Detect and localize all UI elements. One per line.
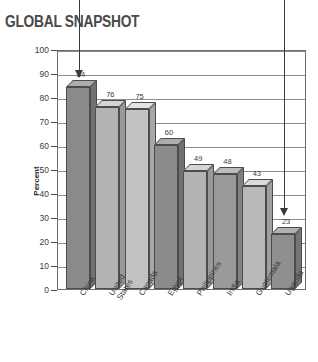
bar-value-label: 60 bbox=[149, 128, 189, 137]
y-tick-mark bbox=[51, 122, 57, 123]
arrow-uganda-head bbox=[280, 208, 288, 216]
y-tick-label: 80 bbox=[19, 93, 49, 103]
y-tick-mark bbox=[51, 170, 57, 171]
bar-value-label: 23 bbox=[266, 217, 306, 226]
bar-front-face bbox=[183, 171, 207, 289]
y-tick-mark bbox=[51, 242, 57, 243]
y-tick-label: 70 bbox=[19, 117, 49, 127]
chart-container: GLOBAL SNAPSHOT Percent 8476756049484323… bbox=[0, 0, 318, 362]
bar-canada: 75 bbox=[125, 109, 149, 289]
gridline bbox=[58, 51, 305, 52]
bar-front-face bbox=[125, 109, 149, 289]
arrow-uganda-line bbox=[284, 0, 285, 209]
bar-value-label: 75 bbox=[120, 92, 160, 101]
bar-front-face bbox=[66, 87, 90, 289]
bar-china: 84 bbox=[66, 87, 90, 289]
y-tick-mark bbox=[51, 74, 57, 75]
y-tick-mark bbox=[51, 266, 57, 267]
bar-front-face bbox=[95, 107, 119, 289]
bar-united-states: 76 bbox=[95, 107, 119, 289]
y-tick-label: 20 bbox=[19, 237, 49, 247]
page-title: GLOBAL SNAPSHOT bbox=[5, 13, 139, 31]
y-tick-mark bbox=[51, 146, 57, 147]
y-tick-label: 60 bbox=[19, 141, 49, 151]
y-tick-label: 40 bbox=[19, 189, 49, 199]
y-tick-label: 0 bbox=[19, 285, 49, 295]
y-tick-mark bbox=[51, 50, 57, 51]
bar-philippines: 49 bbox=[183, 171, 207, 289]
y-tick-label: 10 bbox=[19, 261, 49, 271]
y-tick-label: 100 bbox=[19, 45, 49, 55]
arrow-china-line bbox=[79, 0, 80, 71]
bar-front-face bbox=[242, 186, 266, 289]
y-tick-label: 30 bbox=[19, 213, 49, 223]
bar-value-label: 48 bbox=[208, 157, 248, 166]
y-tick-mark bbox=[51, 98, 57, 99]
bar-front-face bbox=[154, 145, 178, 289]
y-tick-label: 90 bbox=[19, 69, 49, 79]
y-tick-mark bbox=[51, 290, 57, 291]
bar-value-label: 43 bbox=[237, 169, 277, 178]
y-tick-mark bbox=[51, 194, 57, 195]
bar-egypt: 60 bbox=[154, 145, 178, 289]
y-tick-mark bbox=[51, 218, 57, 219]
y-tick-label: 50 bbox=[19, 165, 49, 175]
arrow-china-head bbox=[75, 70, 83, 78]
bar-guatemala: 43 bbox=[242, 186, 266, 289]
plot-area: 8476756049484323 bbox=[57, 50, 306, 290]
